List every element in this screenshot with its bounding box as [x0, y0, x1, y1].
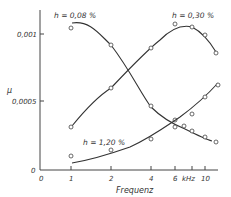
data-point — [69, 26, 73, 30]
x-tick-label: 4 — [149, 175, 153, 183]
data-point — [109, 148, 113, 152]
x-tick-label: 2 — [109, 175, 114, 183]
series-label-h008: h = 0,08 % — [54, 11, 96, 20]
data-point — [149, 46, 153, 50]
y-tick-label: 0,0005 — [12, 98, 37, 106]
data-point — [214, 140, 218, 144]
data-point — [149, 104, 153, 108]
data-point — [203, 33, 207, 37]
data-point — [149, 137, 153, 141]
data-point — [190, 25, 194, 29]
x-tick-label: 1 — [69, 175, 73, 183]
x-tick-label: 0 — [39, 175, 44, 183]
y-tick-label: 0,001 — [17, 31, 37, 39]
x-tick-label: 6 — [173, 175, 178, 183]
series-h008-curve — [72, 23, 212, 141]
series-label-h120: h = 1,20 % — [83, 138, 125, 147]
x-axis-label: Frequenz — [116, 186, 154, 195]
data-point — [173, 125, 177, 129]
series-h120-curve — [72, 83, 218, 163]
data-point — [214, 51, 218, 55]
y-tick-label: 0 — [31, 167, 36, 175]
data-point — [69, 154, 73, 158]
y-axis-label: μ — [6, 86, 12, 95]
data-point — [190, 112, 194, 116]
data-point — [203, 135, 207, 139]
data-point — [109, 86, 113, 90]
data-point — [109, 43, 113, 47]
x-unit-label: kHz — [182, 175, 195, 183]
data-point — [173, 22, 177, 26]
series-label-h030: h = 0,30 % — [172, 11, 214, 20]
chart: 0,001 0,0005 0 μ 0 1 2 4 6 kHz 10 Freque… — [0, 0, 231, 197]
data-point — [182, 124, 186, 128]
series-h030-curve — [72, 26, 216, 126]
x-tick-label: 10 — [201, 175, 210, 183]
data-point — [216, 83, 220, 87]
data-point — [190, 129, 194, 133]
data-point — [69, 125, 73, 129]
data-point — [203, 95, 207, 99]
